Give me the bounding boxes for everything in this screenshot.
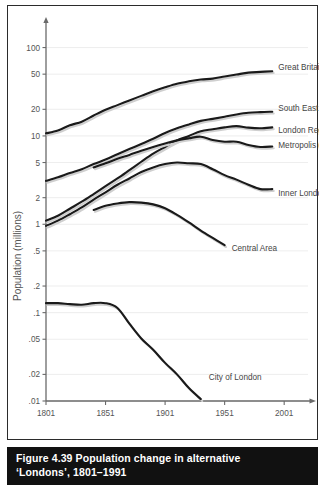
y-axis-tick-labels: .01.02.05.1.2.5125102050100 xyxy=(26,44,46,406)
figure-caption: Figure 4.39 Population change in alterna… xyxy=(7,447,318,485)
y-tick-label: .5 xyxy=(33,247,40,256)
x-axis-arrow xyxy=(310,398,317,403)
figure-number: Figure 4.39 xyxy=(16,452,73,464)
chart-frame: .01.02.05.1.2.5125102050100 180118511901… xyxy=(7,5,318,440)
y-tick-label: .02 xyxy=(29,370,41,379)
series-shadow xyxy=(47,164,273,227)
figure-container: .01.02.05.1.2.5125102050100 180118511901… xyxy=(0,0,325,489)
y-axis-arrow xyxy=(43,17,48,23)
x-tick-label: 1801 xyxy=(37,409,56,418)
caption-line-1: Figure 4.39 Population change in alterna… xyxy=(16,452,309,466)
x-tick-label: 1901 xyxy=(156,409,175,418)
x-tick-label: 1851 xyxy=(96,409,115,418)
population-line-chart: .01.02.05.1.2.5125102050100 180118511901… xyxy=(8,6,319,441)
y-tick-label: .05 xyxy=(29,335,41,344)
y-tick-label: .1 xyxy=(33,309,40,318)
x-tick-label: 2001 xyxy=(275,409,294,418)
series-label: Central Area xyxy=(232,244,278,253)
y-tick-label: 20 xyxy=(31,105,41,114)
caption-line-2: ‘Londons’, 1801–1991 xyxy=(16,466,309,480)
axes xyxy=(43,17,316,404)
y-tick-label: .01 xyxy=(29,397,41,406)
series-label: London Region xyxy=(278,126,319,135)
series-label: Metropolis (GLC) xyxy=(278,141,319,150)
series-shadow xyxy=(95,204,226,247)
series-label: City of London xyxy=(209,373,262,382)
y-tick-label: 1 xyxy=(35,220,40,229)
x-tick-label: 1951 xyxy=(216,409,235,418)
series-label: Inner London (LCC) xyxy=(278,189,319,198)
series-label: South East Region xyxy=(278,104,319,113)
y-tick-label: .2 xyxy=(33,282,40,291)
series-line xyxy=(94,202,225,245)
y-tick-label: 100 xyxy=(26,44,40,53)
series-line xyxy=(46,303,201,399)
series-curves xyxy=(46,71,274,401)
y-tick-label: 50 xyxy=(31,70,41,79)
caption-text-2: ‘Londons’, 1801–1991 xyxy=(16,466,127,478)
y-axis-title: Population (millions) xyxy=(12,211,23,301)
y-tick-label: 5 xyxy=(35,159,40,168)
x-axis-tick-labels: 18011851190119512001 xyxy=(37,401,294,418)
caption-text-1: Population change in alternative xyxy=(76,452,241,464)
y-tick-label: 2 xyxy=(35,194,40,203)
gridlines xyxy=(46,48,308,401)
y-tick-label: 10 xyxy=(31,132,41,141)
series-label: Great Britain xyxy=(278,63,319,72)
